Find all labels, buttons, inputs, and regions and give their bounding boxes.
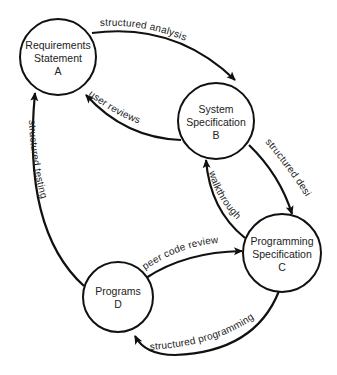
edge-label-structured-analysis: structured analysis bbox=[100, 17, 189, 43]
node-a-line2: Statement bbox=[34, 52, 82, 64]
software-lifecycle-diagram: structured analysis user reviews structu… bbox=[0, 0, 337, 375]
node-a-letter: A bbox=[54, 65, 61, 77]
edge-walkthrough: walkthrough bbox=[206, 160, 245, 238]
node-programming-specification: Programming Specification C bbox=[243, 214, 321, 292]
node-c-line2: Specification bbox=[252, 248, 312, 260]
node-c-letter: C bbox=[278, 261, 286, 273]
edge-structured-programming: structured programming bbox=[135, 291, 279, 355]
edge-label-walkthrough: walkthrough bbox=[207, 169, 244, 222]
node-c-line1: Programming bbox=[250, 235, 313, 247]
node-system-specification: System Specification B bbox=[178, 83, 254, 159]
node-d-line1: Programs bbox=[95, 285, 141, 297]
node-programs: Programs D bbox=[83, 262, 153, 332]
edge-user-reviews: user reviews bbox=[86, 88, 181, 140]
node-b-line2: Specification bbox=[186, 116, 246, 128]
edge-label-peer-code-review: peer code review bbox=[140, 234, 219, 272]
node-b-letter: B bbox=[212, 129, 219, 141]
node-a-line1: Requirements bbox=[25, 39, 90, 51]
edge-peer-code-review: peer code review bbox=[140, 234, 242, 278]
node-d-letter: D bbox=[114, 298, 122, 310]
edge-label-structured-programming: structured programming bbox=[149, 311, 255, 352]
node-requirements-statement: Requirements Statement A bbox=[20, 19, 96, 95]
edge-label-structured-testing: structured testing bbox=[27, 120, 50, 200]
edge-structured-analysis: structured analysis bbox=[92, 17, 235, 80]
edge-structured-testing: structured testing bbox=[27, 93, 84, 286]
node-b-line1: System bbox=[198, 103, 233, 115]
